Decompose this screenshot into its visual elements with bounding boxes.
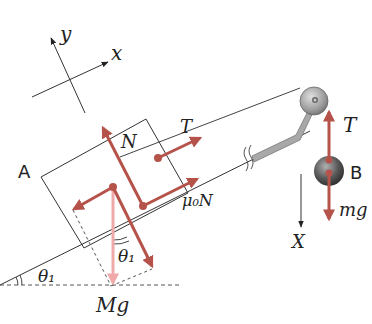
component-angle-label: θ₁ [118,246,135,266]
tension-a-label: T [180,116,194,137]
vertical-x-axis: X [290,174,306,252]
tilted-axes: x y [32,22,122,113]
friction-label: μ₀N [182,191,214,210]
gravity-b-label: mg [339,199,368,220]
y-axis-label: y [59,22,72,46]
incline-angle-label: θ₁ [38,266,55,286]
block-a: A [18,119,188,248]
tension-b-label: T [343,113,358,137]
pulley [300,87,328,115]
incline-pulley-diagram: x y θ₁ A θ₁ [0,0,372,324]
mass-b-label: B [350,162,362,183]
mass-b: T B mg [314,112,368,220]
normal-force-label: N [120,131,138,152]
X-axis-label: X [290,231,306,252]
rope-break-mark [244,145,253,171]
x-axis-label: x [111,41,122,65]
block-a-label: A [18,161,31,182]
gravity-a-label: Mg [95,293,129,317]
